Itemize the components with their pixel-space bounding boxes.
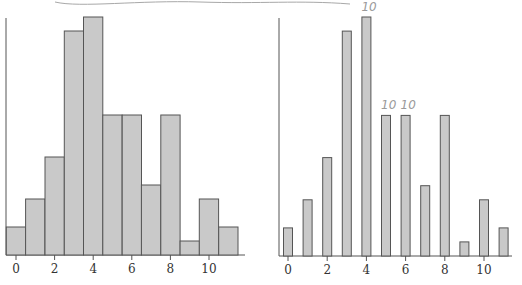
x-tick-label: 0 [12, 262, 20, 276]
bar-6 [122, 115, 141, 255]
handwritten-annotation: 10 [401, 98, 417, 112]
bar-6 [401, 115, 410, 256]
x-tick-label: 4 [363, 263, 371, 277]
bar-11 [219, 227, 238, 255]
x-tick-label: 2 [323, 263, 331, 277]
handwritten-scribble [55, 2, 350, 5]
bar-7 [421, 186, 430, 256]
bar-3 [64, 31, 83, 255]
x-tick-label: 6 [128, 262, 136, 276]
right-spike-chart: 0246810101010 [279, 0, 512, 277]
bar-8 [440, 115, 449, 256]
x-tick-label: 6 [402, 263, 410, 277]
bar-8 [161, 115, 180, 255]
x-tick-label: 2 [51, 262, 59, 276]
x-tick-label: 0 [284, 263, 292, 277]
bar-5 [382, 115, 391, 256]
x-tick-label: 8 [167, 262, 175, 276]
bar-10 [480, 200, 489, 256]
bar-11 [499, 228, 508, 256]
bar-2 [323, 158, 332, 256]
x-tick-label: 8 [441, 263, 449, 277]
bar-0 [6, 227, 25, 255]
bar-3 [342, 31, 351, 256]
bar-9 [180, 241, 199, 255]
bar-4 [362, 17, 371, 256]
bar-10 [199, 199, 218, 255]
bar-5 [103, 115, 122, 255]
bar-4 [84, 17, 103, 255]
handwritten-annotation: 10 [381, 98, 397, 112]
histogram-comparison-figure: 0246810 0246810101010 [0, 0, 522, 285]
handwritten-annotation: 10 [361, 0, 377, 14]
bar-7 [141, 185, 160, 255]
bar-2 [45, 157, 64, 255]
x-tick-label: 4 [89, 262, 97, 276]
bar-9 [460, 242, 469, 256]
x-tick-label: 10 [476, 263, 491, 277]
x-tick-label: 10 [201, 262, 216, 276]
left-histogram: 0246810 [6, 17, 245, 276]
bar-1 [26, 199, 45, 255]
bar-0 [284, 228, 293, 256]
bar-1 [303, 200, 312, 256]
